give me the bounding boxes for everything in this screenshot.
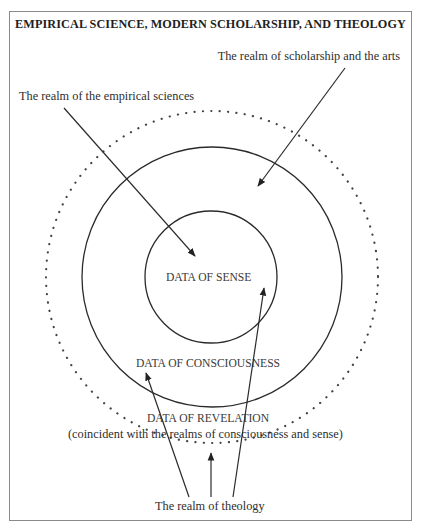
label-consciousness: DATA OF CONSCIOUSNESS: [136, 357, 280, 370]
theology-arrow-sense: [233, 288, 264, 497]
label-theology: The realm of theology: [155, 499, 265, 514]
scholarship-arrow: [258, 68, 345, 186]
label-scholarship: The realm of scholarship and the arts: [218, 49, 400, 64]
concentric-realms-diagram: [0, 0, 423, 531]
label-empirical: The realm of the empirical sciences: [19, 89, 194, 104]
empirical-arrow: [64, 108, 195, 256]
label-revelation: DATA OF REVELATION: [147, 412, 269, 425]
label-revelation-note: (coincident with the realms of conscious…: [68, 427, 343, 442]
label-sense: DATA OF SENSE: [166, 271, 251, 284]
